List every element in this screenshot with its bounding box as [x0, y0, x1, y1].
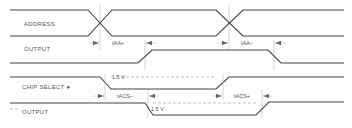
output2-label: OUTPUT: [22, 109, 48, 115]
output1-label: OUTPUT: [24, 46, 50, 52]
taa-minus-label: tAA−: [241, 40, 253, 46]
address-label: ADDRESS: [24, 21, 55, 27]
output2-waveform: [10, 102, 344, 115]
timing-diagram: ADDRESS OUTPUT tAA+ tAA− CHIP SELECT ● 1…: [0, 0, 352, 128]
taa-plus-label: tAA+: [112, 40, 124, 46]
address-waveform: [10, 10, 344, 36]
cs-threshold-label: 1.5 V: [112, 74, 125, 80]
out-threshold-label: 1.5 V: [151, 106, 164, 112]
chip-select-label: CHIP SELECT ●: [22, 84, 70, 90]
tacs-minus-label: tACS−: [117, 93, 133, 99]
tacs-plus-label: tACS+: [234, 93, 250, 99]
output1-waveform: [10, 50, 344, 63]
